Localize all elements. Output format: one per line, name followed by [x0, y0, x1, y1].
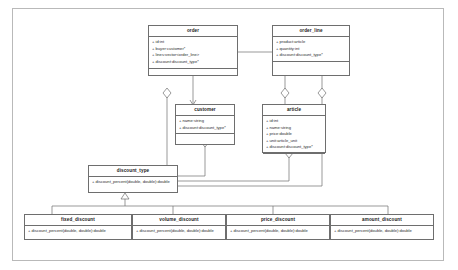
attribute-row: + discount:discount_type* [152, 59, 236, 66]
attribute-row: + name:string [266, 125, 324, 132]
class-price-discount[interactable]: price_discount + discount_percent(double… [226, 214, 330, 240]
class-amount-discount-name: amount_discount [331, 215, 433, 226]
class-customer-attributes: + name:string + discount:discount_type* [176, 116, 234, 135]
class-customer-name: customer [176, 105, 234, 116]
class-article[interactable]: article + id:int + name:string + price:d… [262, 104, 326, 153]
operation-row: + discount_percent(double, double):doubl… [136, 228, 224, 235]
class-order[interactable]: order + id:int + buyer:customer* + lines… [148, 25, 238, 76]
class-volume-discount[interactable]: volume_discount + discount_percent(doubl… [132, 214, 226, 240]
attribute-row: + id:int [266, 118, 324, 125]
class-order-line[interactable]: order_line + product:article + quantity:… [272, 25, 350, 76]
class-discount-type-name: discount_type [89, 166, 177, 177]
attribute-row: + discount:discount_type* [276, 52, 348, 59]
class-volume-discount-name: volume_discount [133, 215, 225, 226]
class-price-discount-operations: + discount_percent(double, double):doubl… [227, 226, 329, 237]
operation-row: + discount_percent(double, double):doubl… [334, 228, 432, 235]
attribute-row: + buyer:customer* [152, 46, 236, 53]
class-order-operations [149, 69, 237, 81]
class-discount-type[interactable]: discount_type + discount_percent(double,… [88, 165, 178, 193]
class-amount-discount[interactable]: amount_discount + discount_percent(doubl… [330, 214, 434, 240]
aggregation-diamond-order [163, 88, 171, 98]
attribute-row: + unit:article_unit [266, 138, 324, 145]
attribute-row: + quantity:int [276, 46, 348, 53]
class-order-attributes: + id:int + buyer:customer* + lines:vecto… [149, 37, 237, 69]
class-fixed-discount-operations: + discount_percent(double, double):doubl… [25, 226, 131, 237]
operation-row: + discount_percent(double, double):doubl… [92, 179, 176, 186]
class-amount-discount-operations: + discount_percent(double, double):doubl… [331, 226, 433, 237]
class-fixed-discount-name: fixed_discount [25, 215, 131, 226]
attribute-row: + discount:discount_type* [179, 125, 233, 132]
class-discount-type-operations: + discount_percent(double, double):doubl… [89, 177, 177, 188]
aggregation-diamond-order_line-discount [318, 88, 326, 98]
class-order-line-attributes: + product:article + quantity:int + disco… [273, 37, 349, 62]
attribute-row: + price:double [266, 131, 324, 138]
class-article-name: article [263, 105, 325, 116]
class-article-operations [263, 154, 325, 164]
class-volume-discount-operations: + discount_percent(double, double):doubl… [133, 226, 225, 237]
attribute-row: + product:article [276, 39, 348, 46]
attribute-row: + name:string [179, 118, 233, 125]
attribute-row: + id:int [152, 39, 236, 46]
operation-row: + discount_percent(double, double):doubl… [28, 228, 130, 235]
operation-row: + discount_percent(double, double):doubl… [230, 228, 328, 235]
class-order-line-name: order_line [273, 26, 349, 37]
attribute-row: + discount:discount_type* [266, 144, 324, 151]
class-fixed-discount[interactable]: fixed_discount + discount_percent(double… [24, 214, 132, 240]
class-order-line-operations [273, 62, 349, 74]
diagram-canvas: order + id:int + buyer:customer* + lines… [0, 0, 458, 270]
class-customer[interactable]: customer + name:string + discount:discou… [175, 104, 235, 145]
class-article-attributes: + id:int + name:string + price:double + … [263, 116, 325, 155]
attribute-row: + lines:vector<order_line> [152, 52, 236, 59]
class-price-discount-name: price_discount [227, 215, 329, 226]
class-customer-operations [176, 134, 234, 144]
aggregation-diamond-order_line-article [281, 88, 289, 98]
generalization-triangle [121, 193, 129, 199]
class-order-name: order [149, 26, 237, 37]
